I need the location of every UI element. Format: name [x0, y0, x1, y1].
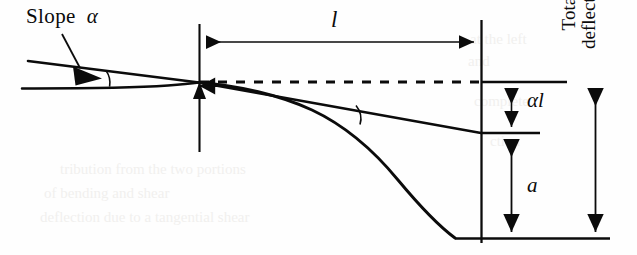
slope-reference-line — [28, 61, 199, 83]
alpha-l-label: αl — [527, 90, 544, 111]
span-length-label: l — [331, 8, 337, 31]
slope-leader-line — [62, 34, 80, 68]
slope-angle-arc — [106, 71, 110, 87]
slope-label-text: Slope — [26, 4, 76, 28]
slope-alpha-symbol: α — [76, 4, 98, 28]
total-deflection-line-2: deflection — [579, 0, 598, 86]
total-deflection-label: Total deflection — [559, 0, 598, 86]
tangent-angle-arc — [356, 106, 361, 125]
beam-deflection-figure: at the left and complete ction tribution… — [0, 0, 637, 255]
deflection-a-label: a — [527, 175, 538, 196]
diagram-canvas — [0, 0, 637, 255]
total-deflection-line-1: Total — [559, 0, 578, 86]
slope-label: Slopeα — [26, 6, 98, 27]
